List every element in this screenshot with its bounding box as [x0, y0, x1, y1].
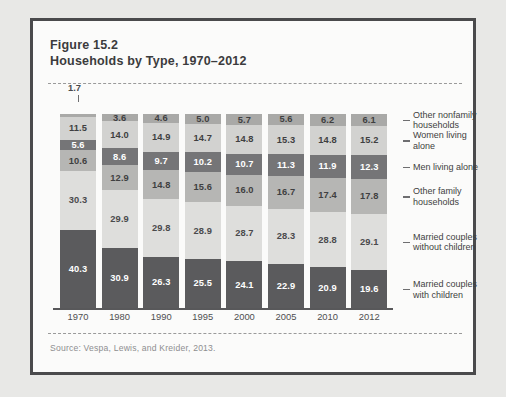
segment-1990-s0: 26.3 — [143, 257, 179, 308]
legend-label-4: Women livingalone — [413, 130, 467, 151]
segment-value: 10.7 — [226, 159, 262, 169]
legend-label-1: Married coupleswithout children — [413, 232, 477, 253]
x-tick-2010: 2010 — [306, 311, 350, 322]
segment-value: 28.3 — [268, 231, 304, 241]
segment-1980-s3: 8.6 — [102, 148, 138, 165]
segment-1970-s0: 40.3 — [60, 230, 96, 308]
bar-1980[interactable]: 3.614.08.612.929.930.9 — [102, 114, 138, 308]
segment-value: 11.5 — [60, 123, 96, 133]
segment-value: 15.3 — [268, 135, 304, 145]
segment-value: 22.9 — [268, 281, 304, 291]
segment-2010-s4: 14.8 — [310, 126, 346, 155]
page-title: Figure 15.2 Households by Type, 1970–201… — [50, 37, 247, 69]
segment-value: 14.8 — [226, 134, 262, 144]
segment-2012-s2: 17.8 — [351, 179, 387, 214]
segment-1980-s1: 29.9 — [102, 190, 138, 248]
segment-1990-s4: 14.9 — [143, 123, 179, 152]
segment-2012-s5: 6.1 — [351, 114, 387, 126]
legend-leader-0 — [403, 289, 410, 290]
segment-1995-s0: 25.5 — [185, 259, 221, 308]
segment-1980-s2: 12.9 — [102, 165, 138, 190]
x-tick-1995: 1995 — [181, 311, 225, 322]
bar-2000[interactable]: 5.714.810.716.028.724.1 — [226, 114, 262, 308]
segment-2010-s3: 11.9 — [310, 155, 346, 178]
segment-2012-s3: 12.3 — [351, 155, 387, 179]
x-tick-1990: 1990 — [139, 311, 183, 322]
segment-2000-s3: 10.7 — [226, 154, 262, 175]
segment-1970-s2: 10.6 — [60, 150, 96, 171]
segment-1980-s5: 3.6 — [102, 114, 138, 121]
segment-value: 40.3 — [60, 264, 96, 274]
stacked-bar-chart: 1.711.55.610.630.340.33.614.08.612.929.9… — [48, 95, 462, 327]
x-tick-2012: 2012 — [347, 311, 391, 322]
segment-2010-s1: 28.8 — [310, 212, 346, 268]
segment-2010-s5: 6.2 — [310, 114, 346, 126]
legend-label-3: Men living alone — [413, 162, 478, 173]
divider-top — [48, 83, 462, 84]
x-axis-line — [53, 308, 393, 310]
legend-leader-5 — [403, 120, 410, 121]
segment-value: 5.0 — [185, 114, 221, 124]
source-note: Source: Vespa, Lewis, and Kreider, 2013. — [50, 343, 216, 353]
segment-value: 29.9 — [102, 214, 138, 224]
bar-1970[interactable]: 1.711.55.610.630.340.3 — [60, 114, 96, 308]
segment-2005-s4: 15.3 — [268, 125, 304, 155]
divider-bottom — [48, 333, 462, 334]
segment-value: 6.2 — [310, 115, 346, 125]
segment-value: 14.8 — [310, 135, 346, 145]
x-tick-2005: 2005 — [264, 311, 308, 322]
segment-2000-s0: 24.1 — [226, 261, 262, 308]
segment-2000-s5: 5.7 — [226, 114, 262, 125]
segment-2010-s0: 20.9 — [310, 267, 346, 308]
bar-2005[interactable]: 5.615.311.316.728.322.9 — [268, 114, 304, 308]
segment-2005-s1: 28.3 — [268, 209, 304, 264]
segment-1990-s1: 29.8 — [143, 199, 179, 257]
figure-number: Figure 15.2 — [50, 37, 247, 53]
segment-2010-s2: 17.4 — [310, 178, 346, 212]
segment-value: 12.3 — [351, 162, 387, 172]
segment-value: 29.1 — [351, 237, 387, 247]
segment-2012-s0: 19.6 — [351, 270, 387, 308]
segment-1990-s5: 4.6 — [143, 114, 179, 123]
segment-value: 17.4 — [310, 190, 346, 200]
segment-value: 20.9 — [310, 283, 346, 293]
segment-value: 10.2 — [185, 157, 221, 167]
segment-value: 24.1 — [226, 280, 262, 290]
segment-value: 16.0 — [226, 185, 262, 195]
segment-value: 26.3 — [143, 277, 179, 287]
x-tick-1980: 1980 — [98, 311, 142, 322]
segment-value: 28.7 — [226, 228, 262, 238]
x-tick-2000: 2000 — [222, 311, 266, 322]
bar-2012[interactable]: 6.115.212.317.829.119.6 — [351, 114, 387, 308]
segment-1995-s2: 15.6 — [185, 172, 221, 202]
segment-2005-s0: 22.9 — [268, 264, 304, 308]
segment-value: 29.8 — [143, 223, 179, 233]
segment-value: 15.2 — [351, 135, 387, 145]
legend-label-0: Married coupleswith children — [413, 279, 477, 300]
segment-2005-s5: 5.6 — [268, 114, 304, 125]
segment-value: 28.8 — [310, 235, 346, 245]
bar-2010[interactable]: 6.214.811.917.428.820.9 — [310, 114, 346, 308]
segment-2000-s4: 14.8 — [226, 125, 262, 154]
legend-leader-2 — [403, 196, 410, 197]
segment-1980-s0: 30.9 — [102, 248, 138, 308]
segment-value: 14.9 — [143, 132, 179, 142]
segment-value: 11.9 — [310, 161, 346, 171]
segment-value: 12.9 — [102, 173, 138, 183]
bar-1990[interactable]: 4.614.99.714.829.826.3 — [143, 114, 179, 308]
segment-value: 6.1 — [351, 115, 387, 125]
segment-value: 11.3 — [268, 160, 304, 170]
callout-1970-other-nonfamily: 1.7 — [68, 83, 81, 93]
segment-1990-s2: 14.8 — [143, 170, 179, 199]
bar-1995[interactable]: 5.014.710.215.628.925.5 — [185, 114, 221, 308]
segment-1970-s3: 5.6 — [60, 140, 96, 151]
segment-value: 14.7 — [185, 133, 221, 143]
segment-2000-s1: 28.7 — [226, 206, 262, 262]
segment-2005-s2: 16.7 — [268, 176, 304, 208]
segment-1995-s5: 5.0 — [185, 114, 221, 124]
segment-value: 17.8 — [351, 191, 387, 201]
x-tick-1970: 1970 — [56, 311, 100, 322]
segment-1970-s1: 30.3 — [60, 171, 96, 230]
segment-2005-s3: 11.3 — [268, 154, 304, 176]
segment-value: 19.6 — [351, 284, 387, 294]
